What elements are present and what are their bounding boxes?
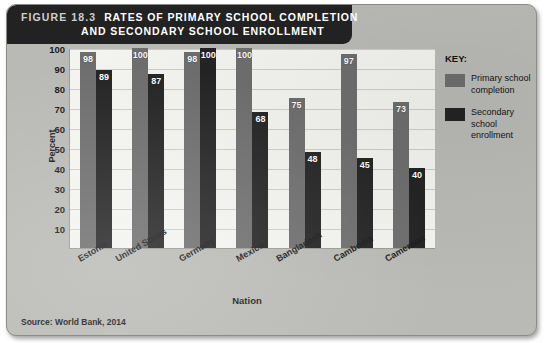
x-label-slot: United States	[121, 251, 173, 297]
bar-value-label: 98	[187, 54, 197, 64]
y-tick-label: 10	[37, 224, 65, 235]
bar-secondary: 87	[148, 74, 164, 248]
legend-swatch-secondary	[445, 108, 465, 121]
bar-secondary: 100	[200, 48, 216, 248]
figure-title-line-2: AND SECONDARY SCHOOL ENROLLMENT	[21, 24, 338, 38]
y-tick-label: 70	[37, 104, 65, 115]
figure-title-line-1: FIGURE 18.3RATES OF PRIMARY SCHOOL COMPL…	[21, 10, 338, 24]
bar-group: 10087	[132, 49, 164, 248]
y-tick-label: 100	[37, 44, 65, 55]
chart-legend: KEY: Primary school completionSecondary …	[445, 53, 531, 153]
y-tick-label: 50	[37, 144, 65, 155]
bar-group: 10068	[236, 49, 268, 248]
bar-group: 98100	[184, 49, 216, 248]
chart-plot-wrapper: Percent 100908070605040302010 9889100879…	[25, 49, 435, 254]
figure-number: FIGURE 18.3	[21, 11, 96, 23]
y-tick-label: 60	[37, 124, 65, 135]
bar-groups: 9889100879810010068754897457340	[70, 49, 435, 248]
bar-primary: 100	[236, 48, 252, 248]
bar-primary: 75	[289, 98, 305, 248]
legend-item: Secondary school enrollment	[445, 107, 531, 142]
bar-primary: 73	[393, 102, 409, 248]
bar-value-label: 100	[237, 50, 252, 60]
bar-group: 7548	[289, 49, 321, 248]
bar-value-label: 89	[99, 72, 109, 82]
bar-group: 7340	[393, 49, 425, 248]
y-tick-label: 20	[37, 204, 65, 215]
legend-item: Primary school completion	[445, 73, 531, 96]
x-label-slot: Estonia	[69, 251, 121, 297]
x-label-slot: Cameroon	[383, 251, 435, 297]
y-tick-label: 90	[37, 64, 65, 75]
y-tick-label: 40	[37, 164, 65, 175]
bar-primary: 97	[341, 54, 357, 248]
bar-value-label: 73	[396, 104, 406, 114]
bar-value-label: 98	[83, 54, 93, 64]
bar-value-label: 97	[344, 56, 354, 66]
x-axis-title: Nation	[67, 295, 427, 306]
bar-group: 9745	[341, 49, 373, 248]
x-label-slot: Cambodia	[331, 251, 383, 297]
legend-item-label: Secondary school enrollment	[471, 107, 531, 142]
y-tick-label: 30	[37, 184, 65, 195]
x-label-slot: Bangladesh	[278, 251, 330, 297]
figure-title-banner: FIGURE 18.3RATES OF PRIMARY SCHOOL COMPL…	[7, 5, 352, 44]
bar-value-label: 100	[133, 50, 148, 60]
legend-items: Primary school completionSecondary schoo…	[445, 73, 531, 142]
x-axis-labels: EstoniaUnited StatesGermanyMexicoBanglad…	[69, 251, 435, 297]
y-axis-ticks: 100908070605040302010	[37, 49, 65, 249]
bar-value-label: 68	[255, 114, 265, 124]
x-label-slot: Germany	[174, 251, 226, 297]
bar-value-label: 100	[201, 50, 216, 60]
bar-secondary: 68	[252, 112, 268, 248]
legend-swatch-primary	[445, 74, 465, 87]
bar-primary: 98	[184, 52, 200, 248]
bar-value-label: 45	[360, 160, 370, 170]
source-note: Source: World Bank, 2014	[21, 317, 126, 327]
bar-group: 9889	[80, 49, 112, 248]
plot-area: 9889100879810010068754897457340	[69, 49, 435, 249]
legend-title: KEY:	[445, 53, 531, 64]
legend-item-label: Primary school completion	[471, 73, 531, 96]
bar-value-label: 75	[292, 100, 302, 110]
x-label-slot: Mexico	[226, 251, 278, 297]
bar-value-label: 48	[308, 154, 318, 164]
bar-secondary: 89	[96, 70, 112, 248]
bar-primary: 98	[80, 52, 96, 248]
bar-primary: 100	[132, 48, 148, 248]
figure-title-text-1: RATES OF PRIMARY SCHOOL COMPLETION	[104, 11, 358, 23]
figure-card: FIGURE 18.3RATES OF PRIMARY SCHOOL COMPL…	[6, 4, 537, 336]
y-tick-label: 80	[37, 84, 65, 95]
bar-value-label: 87	[151, 76, 161, 86]
bar-value-label: 40	[412, 170, 422, 180]
